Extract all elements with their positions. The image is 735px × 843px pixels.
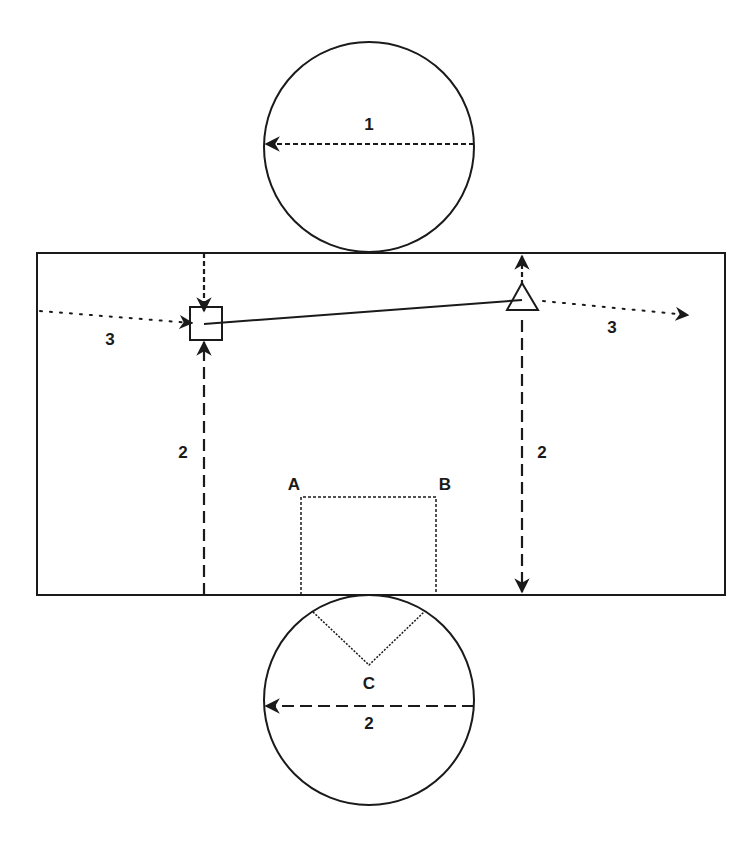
inner-box: [301, 497, 436, 595]
top-circle: 1: [264, 42, 474, 252]
triangle-marker: [507, 283, 538, 310]
cylinder-net-diagram: 1 A B 2 2 3 3 C 2: [0, 0, 735, 843]
left-dotted-path: [40, 311, 192, 323]
sector-lines: [313, 612, 424, 665]
right-height-label: 2: [537, 443, 546, 462]
left-path-label: 3: [105, 330, 114, 349]
connecting-line: [204, 300, 522, 324]
rectangle: A B 2 2 3 3: [37, 253, 725, 595]
corner-label-a: A: [288, 475, 300, 494]
bottom-circle: C 2: [264, 595, 474, 805]
left-height-label: 2: [178, 443, 187, 462]
vertex-label-c: C: [363, 674, 375, 693]
corner-label-b: B: [439, 475, 451, 494]
bottom-circle-label: 2: [364, 714, 373, 733]
top-circle-label: 1: [364, 115, 373, 134]
right-dotted-path: [543, 301, 688, 315]
right-path-label: 3: [607, 318, 616, 337]
